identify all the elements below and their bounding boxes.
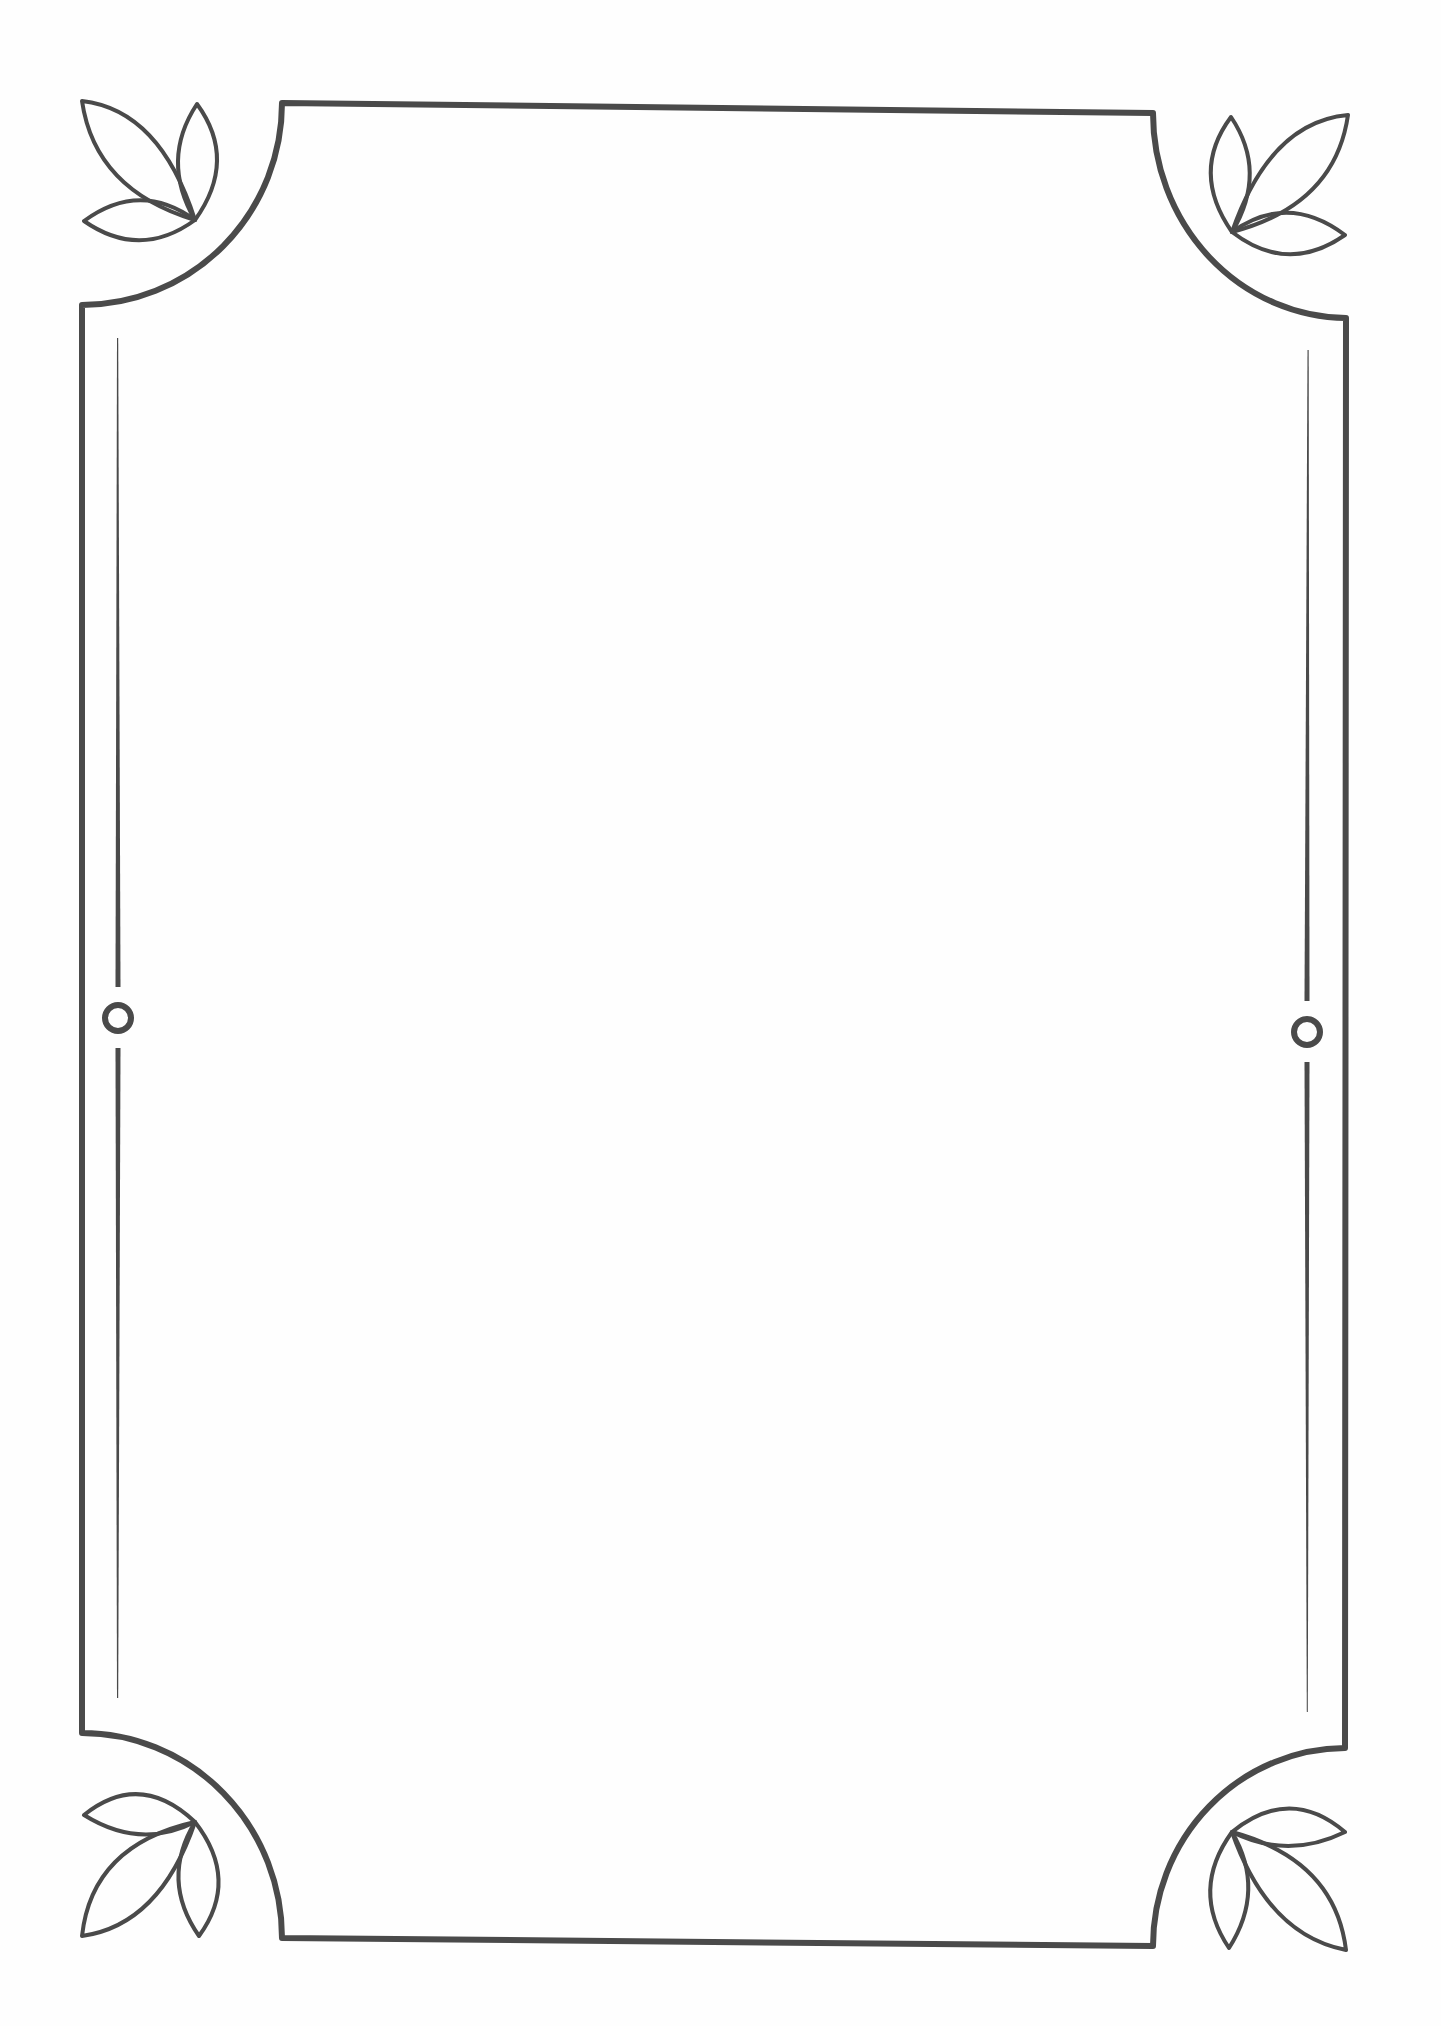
leaf-sprig-icon-top-right — [1211, 115, 1348, 254]
leaf-sprig-icon-top-left — [82, 101, 217, 240]
outer-frame-line — [82, 103, 1346, 1946]
left-inner-line-upper — [116, 338, 121, 987]
right-inner-line-lower — [1305, 1062, 1310, 1712]
blank-bordered-page: Decorative border frame — [0, 0, 1441, 2026]
right-ring-icon — [1294, 1019, 1320, 1045]
leaf-sprig-icon-bottom-left — [82, 1794, 219, 1936]
left-inner-line-lower — [116, 1048, 121, 1698]
left-ring-icon — [105, 1005, 131, 1031]
decorative-border-frame — [0, 0, 1441, 2026]
leaf-sprig-icon-bottom-right — [1210, 1809, 1346, 1951]
right-inner-line-upper — [1305, 350, 1310, 1001]
